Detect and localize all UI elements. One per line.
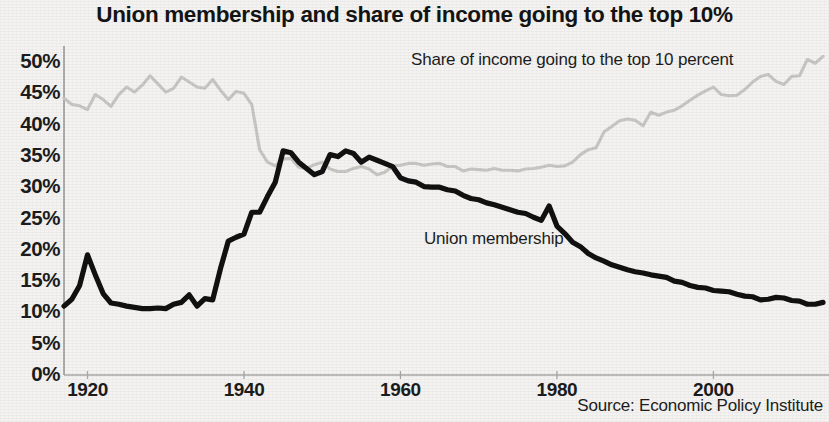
series-line-share-of-income <box>64 56 823 174</box>
x-axis-tick-label: 1960 <box>380 379 421 401</box>
x-axis-tick-label: 1940 <box>224 379 265 401</box>
series-annotation-union-membership: Union membership <box>424 229 563 249</box>
x-axis-tick-label: 1920 <box>67 379 108 401</box>
source-note: Source: Economic Policy Institute <box>577 396 823 416</box>
axis-lines <box>64 46 829 375</box>
x-axis-tick-label: 1980 <box>537 379 578 401</box>
series-annotation-share-of-income: Share of income going to the top 10 perc… <box>411 50 733 70</box>
